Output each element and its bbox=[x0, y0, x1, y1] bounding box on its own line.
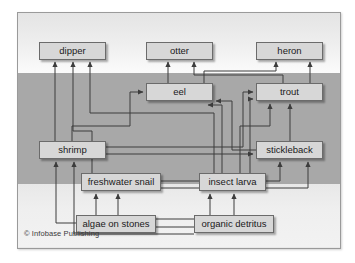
node-insect-larva[interactable]: insect larva bbox=[199, 173, 266, 191]
node-label-insect-larva: insect larva bbox=[208, 176, 256, 187]
node-label-shrimp: shrimp bbox=[58, 144, 87, 155]
node-eel[interactable]: eel bbox=[146, 83, 213, 101]
node-organic-detritus[interactable]: organic detritus bbox=[194, 215, 274, 233]
link-eel-to-heron bbox=[204, 62, 276, 83]
node-dipper[interactable]: dipper bbox=[39, 42, 106, 60]
link-insect-larva-to-eel bbox=[208, 105, 222, 173]
node-label-otter: otter bbox=[170, 45, 189, 56]
node-label-dipper: dipper bbox=[59, 45, 85, 56]
food-web-figure: dipper otter heron eel trout shrimp stic… bbox=[0, 0, 355, 263]
node-heron[interactable]: heron bbox=[256, 42, 323, 60]
link-trout-to-otter bbox=[194, 62, 283, 83]
node-trout[interactable]: trout bbox=[256, 83, 323, 101]
link-shrimp-to-eel bbox=[72, 92, 143, 141]
copyright-credit: © Infobase Publishing bbox=[24, 229, 99, 238]
node-shrimp[interactable]: shrimp bbox=[39, 141, 106, 159]
node-label-heron: heron bbox=[277, 45, 301, 56]
link-algae-to-shrimp bbox=[56, 162, 76, 223]
link-insect-larva-to-dipper bbox=[90, 62, 214, 173]
node-label-trout: trout bbox=[280, 86, 299, 97]
link-freshwater-snail-to-trout bbox=[161, 99, 253, 181]
node-label-stickleback: stickleback bbox=[266, 144, 312, 155]
node-label-organic-detritus: organic detritus bbox=[202, 218, 267, 229]
node-stickleback[interactable]: stickleback bbox=[256, 141, 323, 159]
link-insect-larva-to-trout bbox=[240, 104, 270, 173]
node-label-algae-on-stones: algae on stones bbox=[82, 218, 149, 229]
node-label-freshwater-snail: freshwater snail bbox=[88, 176, 155, 187]
link-insect-larva-to-stickleback bbox=[266, 162, 280, 181]
node-freshwater-snail[interactable]: freshwater snail bbox=[81, 173, 161, 191]
diagram-plate: dipper otter heron eel trout shrimp stic… bbox=[17, 12, 341, 249]
node-otter[interactable]: otter bbox=[146, 42, 213, 60]
node-label-eel: eel bbox=[173, 86, 186, 97]
